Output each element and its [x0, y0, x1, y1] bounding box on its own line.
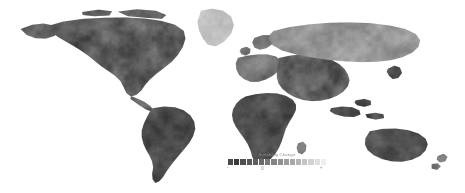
legend-tick: 0 — [261, 165, 264, 171]
legend-tick-labels: −0+ — [228, 165, 326, 177]
legend-tick: − — [227, 165, 230, 171]
legend-tick: + — [320, 165, 323, 171]
map-figure: Suitability Change −0+ — [0, 0, 465, 193]
map-legend: Suitability Change −0+ — [228, 152, 326, 184]
legend-title: Suitability Change — [228, 152, 326, 158]
